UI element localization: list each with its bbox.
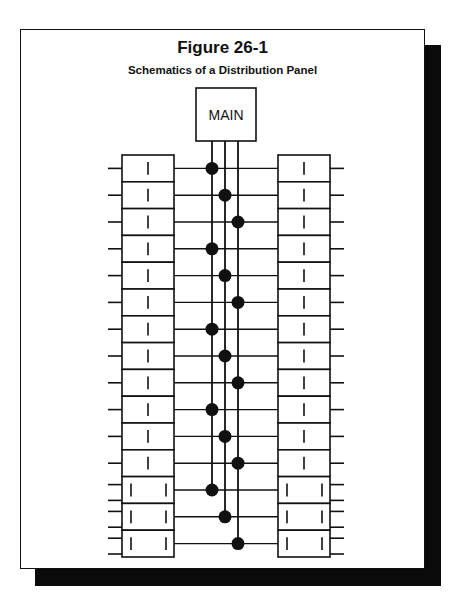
bus-junction-dot [232, 457, 245, 470]
bus-junction-dot [206, 323, 219, 336]
main-label: MAIN [209, 107, 244, 123]
bus-junction-dot [219, 510, 232, 523]
bus-junction-dot [232, 216, 245, 229]
breaker-row [108, 343, 344, 370]
breaker-row [108, 423, 344, 450]
distribution-panel-schematic: MAIN [0, 0, 461, 611]
breaker-rows [108, 155, 344, 557]
bus-junction-dot [232, 376, 245, 389]
bus-junction-dot [232, 537, 245, 550]
bus-junction-dot [219, 189, 232, 202]
bus-junction-dot [206, 242, 219, 255]
breaker-row [108, 369, 344, 396]
breaker-row [108, 530, 344, 557]
bus-junction-dot [219, 350, 232, 363]
breaker-row [108, 235, 344, 262]
bus-junction-dot [232, 296, 245, 309]
bus-junction-dot [219, 269, 232, 282]
breaker-row [108, 262, 344, 289]
bus-junction-dot [206, 162, 219, 175]
breaker-row [108, 289, 344, 316]
breaker-row [108, 182, 344, 209]
breaker-row [108, 396, 344, 423]
breaker-row [108, 209, 344, 236]
breaker-row [108, 316, 344, 343]
breaker-row [108, 155, 344, 182]
breaker-row [108, 477, 344, 504]
breaker-row [108, 503, 344, 530]
bus-junction-dot [206, 403, 219, 416]
main-breaker: MAIN [196, 88, 256, 141]
breaker-row [108, 450, 344, 477]
bus-junction-dot [206, 484, 219, 497]
bus-junction-dot [219, 430, 232, 443]
